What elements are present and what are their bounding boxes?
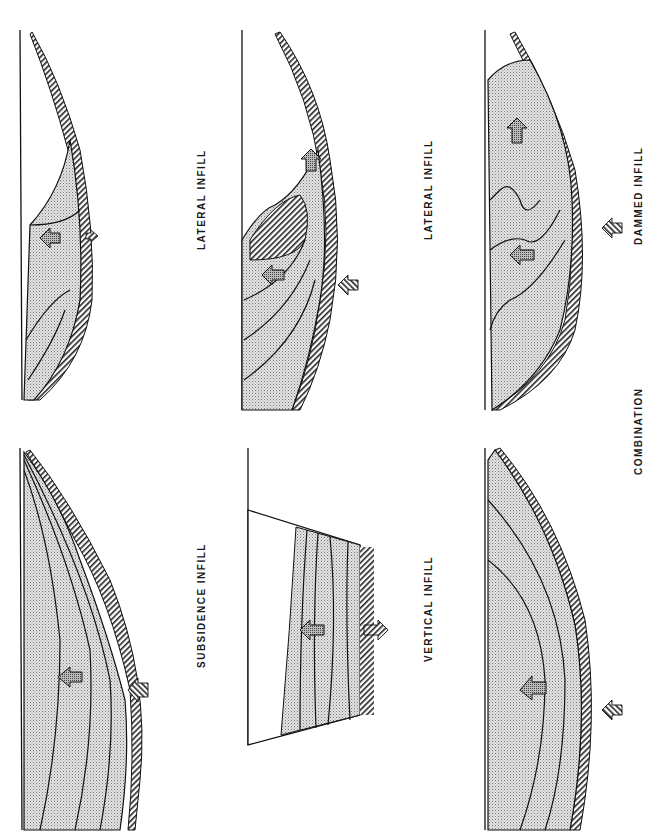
surface-line <box>20 448 22 830</box>
panel-subsidence-infill: SUBSIDENCE INFILL <box>20 448 207 830</box>
surface-line <box>20 30 22 400</box>
subsidence-arrow-icon <box>338 275 358 295</box>
panel-vertical-infill: VERTICAL INFILL <box>248 448 434 745</box>
basin-infill-figure: SUBSIDENCE INFILL LATERAL INFILL VERTICA… <box>0 0 671 839</box>
panel-lateral-infill-detailed <box>242 30 358 410</box>
panel-label: DAMMED INFILL <box>633 147 644 245</box>
subsidence-arrow-icon <box>602 218 622 238</box>
panel-label: SUBSIDENCE INFILL <box>196 543 207 668</box>
panel-lateral-infill-simple <box>20 30 98 400</box>
panel-label: LATERAL INFILL <box>423 139 434 240</box>
panel-label: VERTICAL INFILL <box>423 556 434 662</box>
panel-label: COMBINATION <box>633 388 644 475</box>
panel-dammed-infill <box>485 30 622 410</box>
panel-combination: COMBINATION <box>485 388 644 830</box>
panel-label: LATERAL INFILL <box>196 149 207 250</box>
basin-fill <box>24 452 127 830</box>
subsidence-arrow-icon <box>602 700 622 720</box>
